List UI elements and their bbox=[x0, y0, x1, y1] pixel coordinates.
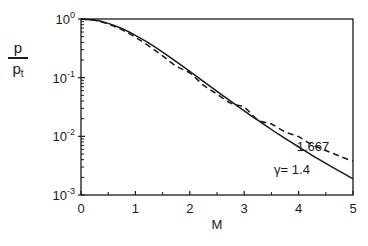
y-tick-label: 10-1 bbox=[53, 69, 75, 86]
plot-frame bbox=[81, 19, 353, 195]
data-series bbox=[81, 19, 353, 179]
annotation-gamma-14: γ= 1.4 bbox=[274, 162, 310, 177]
x-axis-label: M bbox=[212, 217, 223, 232]
annotation-gamma-1667: 1.667 bbox=[297, 139, 330, 154]
chart-plot: 10010-110-210-3 012345 M 1.667 γ= 1.4 bbox=[0, 0, 368, 246]
series-gamma-14-line bbox=[81, 19, 353, 179]
y-tick-label: 100 bbox=[56, 10, 75, 27]
x-tick-label: 5 bbox=[349, 201, 356, 216]
x-tick-label: 3 bbox=[241, 201, 248, 216]
y-axis-ticks: 10010-110-210-3 bbox=[53, 10, 85, 203]
x-tick-label: 1 bbox=[132, 201, 139, 216]
y-tick-label: 10-2 bbox=[53, 127, 75, 144]
x-tick-label: 0 bbox=[77, 201, 84, 216]
x-tick-label: 2 bbox=[186, 201, 193, 216]
x-tick-label: 4 bbox=[295, 201, 302, 216]
y-tick-label: 10-3 bbox=[53, 186, 75, 203]
